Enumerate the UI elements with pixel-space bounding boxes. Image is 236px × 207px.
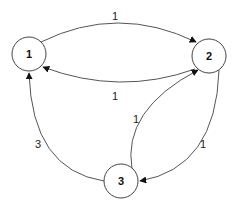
edge-weight-label: 1 (112, 10, 118, 22)
edge-weight-label: 1 (112, 90, 118, 102)
graph-diagram: 1 1 1 1 3 1 2 3 (0, 0, 236, 207)
edge-line (41, 23, 196, 42)
edge-line (29, 73, 104, 181)
node-label: 2 (206, 50, 212, 62)
node-3: 3 (104, 164, 138, 198)
node-2: 2 (192, 39, 226, 73)
edge-2-to-1: 1 (43, 67, 195, 102)
edge-line (131, 70, 198, 169)
node-label: 3 (118, 175, 124, 187)
edge-3-to-1: 3 (29, 73, 104, 181)
edge-1-to-2: 1 (41, 10, 196, 42)
edge-weight-label: 1 (133, 113, 139, 125)
node-1: 1 (12, 37, 46, 71)
edge-line (140, 70, 219, 181)
edge-line (43, 67, 195, 82)
node-label: 1 (26, 48, 32, 60)
edge-weight-label: 1 (200, 138, 206, 150)
edge-2-to-3: 1 (140, 70, 219, 181)
edge-3-to-2: 1 (131, 70, 198, 169)
edge-weight-label: 3 (35, 138, 41, 150)
